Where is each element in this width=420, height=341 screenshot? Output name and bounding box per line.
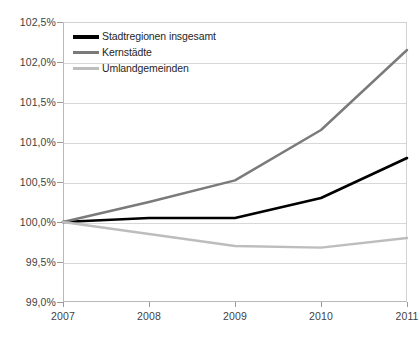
- y-axis-label: 100,0%: [4, 217, 56, 228]
- chart-legend: Stadtregionen insgesamtKernstädteUmlandg…: [73, 29, 216, 77]
- x-axis-label: 2011: [377, 311, 420, 322]
- line-chart: 102,5%102,0%101,5%101,0%100,5%100,0%99,5…: [0, 0, 420, 341]
- legend-swatch-icon: [73, 67, 99, 70]
- y-axis-label: 101,0%: [4, 137, 56, 148]
- x-axis-label: 2009: [205, 311, 265, 322]
- y-axis-label: 102,0%: [4, 57, 56, 68]
- series-line-0: [63, 158, 407, 222]
- x-axis-label: 2010: [291, 311, 351, 322]
- x-axis-tick: [321, 302, 322, 307]
- x-axis-label: 2008: [119, 311, 179, 322]
- legend-item: Kernstädte: [73, 45, 216, 60]
- y-axis-label: 101,5%: [4, 97, 56, 108]
- legend-item: Stadtregionen insgesamt: [73, 29, 216, 44]
- y-axis-label: 99,5%: [4, 257, 56, 268]
- y-axis-label: 99,0%: [4, 297, 56, 308]
- x-axis-tick: [235, 302, 236, 307]
- y-axis-label: 100,5%: [4, 177, 56, 188]
- legend-swatch-icon: [73, 51, 99, 54]
- legend-label: Kernstädte: [102, 47, 152, 58]
- legend-label: Stadtregionen insgesamt: [102, 31, 216, 42]
- x-axis-label: 2007: [33, 311, 93, 322]
- legend-label: Umlandgemeinden: [102, 63, 189, 74]
- series-line-2: [63, 222, 407, 248]
- x-axis-tick: [149, 302, 150, 307]
- y-axis-label: 102,5%: [4, 17, 56, 28]
- legend-item: Umlandgemeinden: [73, 61, 216, 76]
- legend-swatch-icon: [73, 35, 99, 39]
- x-axis-tick: [63, 302, 64, 307]
- x-axis-tick: [407, 302, 408, 307]
